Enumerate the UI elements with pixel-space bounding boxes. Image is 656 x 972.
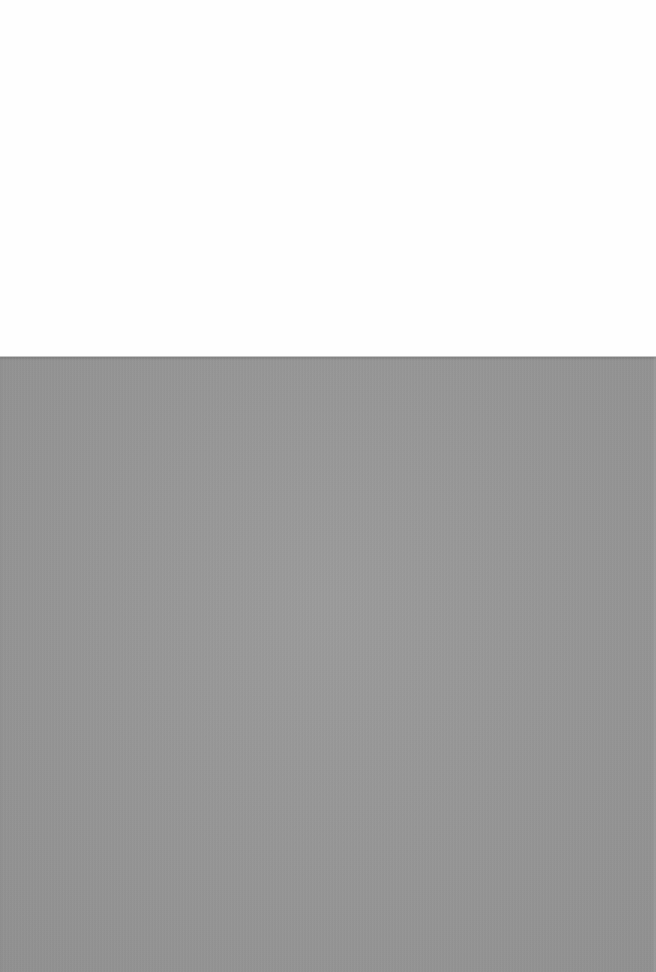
white-background bbox=[0, 0, 656, 357]
surface-right-edge bbox=[652, 357, 656, 972]
gray-textured-surface bbox=[0, 357, 656, 972]
